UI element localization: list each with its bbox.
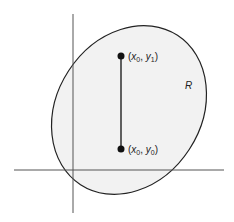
bottom-point [118,146,125,153]
region-r [20,0,234,222]
region-diagram: (x0, y1) (x0, y0) R [0,0,234,222]
top-point [118,53,125,60]
region-label: R [185,80,192,91]
